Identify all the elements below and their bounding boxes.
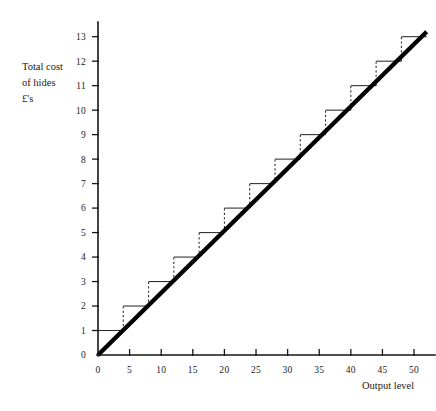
chart-canvas: 012345678910111213 05101520253035404550 … — [0, 0, 436, 411]
x-axis-ticks: 05101520253035404550 — [95, 349, 419, 375]
y-tick-label: 6 — [81, 203, 86, 213]
y-axis-label-line: of hides — [22, 77, 56, 88]
trend-line — [98, 32, 427, 355]
y-axis-label: Total costof hides£'s — [22, 61, 63, 104]
trend-line-series — [98, 32, 427, 355]
x-tick-label: 50 — [409, 365, 419, 375]
y-axis-label-line: Total cost — [22, 61, 63, 72]
cost-of-hides-chart: 012345678910111213 05101520253035404550 … — [0, 0, 436, 411]
y-tick-label: 7 — [81, 179, 86, 189]
y-tick-label: 2 — [81, 301, 86, 311]
x-tick-label: 45 — [377, 365, 387, 375]
x-tick-label: 40 — [346, 365, 356, 375]
y-tick-label: 0 — [81, 350, 86, 360]
x-tick-label: 35 — [314, 365, 324, 375]
y-tick-label: 1 — [81, 326, 86, 336]
y-tick-label: 3 — [81, 277, 86, 287]
y-tick-label: 8 — [81, 155, 86, 165]
y-tick-label: 9 — [81, 130, 86, 140]
x-tick-label: 25 — [251, 365, 261, 375]
y-tick-label: 11 — [76, 81, 86, 91]
y-tick-label: 10 — [76, 106, 86, 116]
x-tick-label: 5 — [127, 365, 132, 375]
x-tick-label: 0 — [95, 365, 100, 375]
y-tick-label: 5 — [81, 228, 86, 238]
y-tick-label: 13 — [76, 32, 86, 42]
x-tick-label: 10 — [156, 365, 166, 375]
y-tick-label: 12 — [76, 57, 86, 67]
y-tick-label: 4 — [81, 252, 86, 262]
x-tick-label: 15 — [188, 365, 198, 375]
y-axis-label-line: £'s — [22, 93, 33, 104]
x-axis-label: Output level — [362, 380, 414, 391]
y-axis-ticks: 012345678910111213 — [76, 32, 99, 360]
x-tick-label: 30 — [283, 365, 293, 375]
x-tick-label: 20 — [219, 365, 229, 375]
